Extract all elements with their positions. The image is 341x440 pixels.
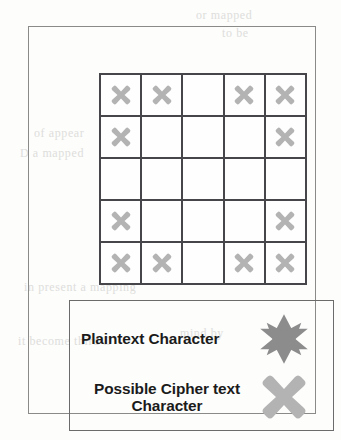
cross-mark-icon [274, 84, 296, 106]
grid-cell-r3-c4[interactable] [225, 159, 266, 201]
six-pointed-star-icon [255, 311, 313, 367]
cross-mark-icon [110, 210, 132, 232]
grid-cell-r5-c4[interactable] [225, 243, 266, 285]
grid-cell-r1-c4[interactable] [225, 75, 266, 117]
grid-cell-r4-c3[interactable] [183, 201, 224, 243]
cross-mark-icon [274, 252, 296, 274]
grid-cell-r2-c2[interactable] [142, 117, 183, 159]
grid-cell-r4-c5[interactable] [266, 201, 307, 243]
cross-mark-icon [110, 126, 132, 148]
grid-cell-r2-c5[interactable] [266, 117, 307, 159]
legend-label-plaintext: Plaintext Character [81, 330, 253, 347]
grid-cell-r4-c4[interactable] [225, 201, 266, 243]
grid-cell-r3-c1[interactable] [101, 159, 142, 201]
legend-label-ciphertext-line2: Character [132, 397, 203, 414]
legend-item-ciphertext: Possible Cipher text Character [70, 367, 333, 427]
grid-cell-r2-c4[interactable] [225, 117, 266, 159]
figure-frame: Plaintext Character Possible Cipher text… [28, 26, 316, 414]
grid-cell-r1-c1[interactable] [101, 75, 142, 117]
grid-cell-r3-c3[interactable] [183, 159, 224, 201]
grid-cell-r5-c2[interactable] [142, 243, 183, 285]
grid-cell-r5-c3[interactable] [183, 243, 224, 285]
legend-item-plaintext: Plaintext Character [70, 311, 333, 367]
legend-label-ciphertext: Possible Cipher text Character [81, 380, 253, 415]
grid-cell-r3-c2[interactable] [142, 159, 183, 201]
grid-cell-r1-c2[interactable] [142, 75, 183, 117]
bleed-text-0: or mapped [196, 8, 252, 23]
cross-mark-icon [233, 252, 255, 274]
grid-cell-r2-c1[interactable] [101, 117, 142, 159]
grid-cell-r4-c1[interactable] [101, 201, 142, 243]
cross-mark-icon [151, 252, 173, 274]
cross-mark-icon [233, 84, 255, 106]
legend-label-ciphertext-line1: Possible Cipher text [94, 380, 240, 397]
cross-mark-icon [110, 84, 132, 106]
cross-mark-icon [255, 369, 313, 425]
grid-cell-r4-c2[interactable] [142, 201, 183, 243]
grid-cell-r5-c5[interactable] [266, 243, 307, 285]
grid-cell-r2-c3[interactable] [183, 117, 224, 159]
grid-cell-r1-c5[interactable] [266, 75, 307, 117]
legend-box: Plaintext Character Possible Cipher text… [69, 300, 334, 431]
grid-cell-r1-c3[interactable] [183, 75, 224, 117]
cross-mark-icon [274, 126, 296, 148]
cross-mark-icon [110, 252, 132, 274]
grid-cell-r5-c1[interactable] [101, 243, 142, 285]
cross-mark-icon [151, 84, 173, 106]
cipher-grid [99, 73, 307, 285]
cross-mark-icon [274, 210, 296, 232]
grid-cell-r3-c5[interactable] [266, 159, 307, 201]
